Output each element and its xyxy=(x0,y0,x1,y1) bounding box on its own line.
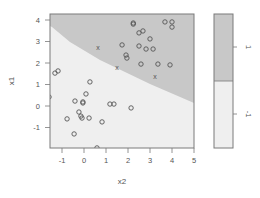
x-tick-label: 0 xyxy=(82,156,86,165)
legend-colorbar: 1 -1 xyxy=(214,14,253,148)
x-tick-label: 1 xyxy=(104,156,108,165)
y-axis-title: x1 xyxy=(7,76,16,85)
svm-classification-plot: xxx -101234 -1012345 x2 x1 1 -1 xyxy=(0,0,260,198)
y-tick-label: 3 xyxy=(36,37,40,46)
x-tick-label: -1 xyxy=(59,156,66,165)
y-tick-label: -1 xyxy=(33,123,40,132)
x-axis-title: x2 xyxy=(118,177,127,186)
legend-swatch-minus1 xyxy=(214,81,233,148)
y-tick-label: 0 xyxy=(36,102,40,111)
data-point-x: x xyxy=(153,73,157,80)
x-tick-label: 3 xyxy=(148,156,152,165)
x-tick-label: 5 xyxy=(192,156,196,165)
data-point-x: x xyxy=(96,44,100,51)
data-point-x: x xyxy=(115,64,119,71)
x-axis: -1012345 xyxy=(59,148,196,165)
x-tick-label: 4 xyxy=(170,156,174,165)
y-tick-label: 1 xyxy=(36,80,40,89)
legend-swatch-1 xyxy=(214,14,233,81)
plot-area: xxx xyxy=(47,14,194,150)
y-axis: -101234 xyxy=(33,16,50,133)
legend-label-1: 1 xyxy=(244,45,253,49)
legend-label-minus1: -1 xyxy=(244,111,253,118)
y-tick-label: 2 xyxy=(36,59,40,68)
x-tick-label: 2 xyxy=(126,156,130,165)
y-tick-label: 4 xyxy=(36,16,40,25)
